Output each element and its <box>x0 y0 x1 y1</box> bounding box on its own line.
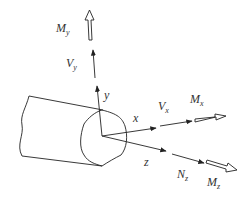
label-nz: Nz <box>176 167 189 183</box>
beam-force-diagram: My Vy y x z Vx Mx Nz Mz <box>0 0 248 200</box>
y-axis <box>97 86 102 136</box>
label-vy: Vy <box>66 56 77 72</box>
mz-hollow-arrow <box>206 160 237 172</box>
z-axis <box>102 136 166 151</box>
label-z-axis: z <box>143 155 149 169</box>
label-mz: Mz <box>206 175 221 191</box>
label-my: My <box>55 21 70 37</box>
label-y-axis: y <box>103 88 110 102</box>
mx-hollow-arrow <box>195 114 226 122</box>
my-hollow-arrow <box>85 10 94 40</box>
cross-section <box>81 110 127 166</box>
label-mx: Mx <box>189 92 204 108</box>
beam-body <box>20 96 127 166</box>
nz-arrow <box>172 154 204 163</box>
x-axis <box>102 128 156 136</box>
vy-arrow <box>93 50 95 78</box>
label-x-axis: x <box>132 111 139 125</box>
label-vx: Vx <box>158 99 169 115</box>
vx-arrow <box>160 121 192 126</box>
